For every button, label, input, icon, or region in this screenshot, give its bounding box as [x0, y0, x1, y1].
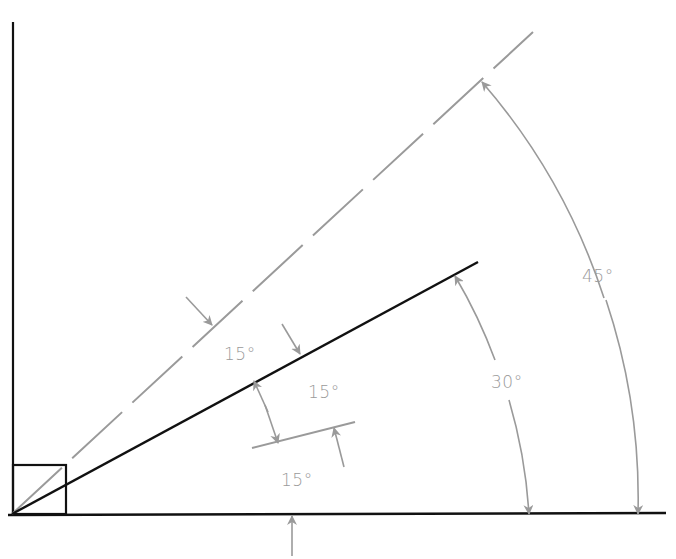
label-30: 30° [491, 372, 523, 392]
label-15-lower: 15° [281, 470, 313, 490]
angle-diagram: 45° 30° 15° 15° 15° [0, 0, 676, 559]
line-15-degrees [252, 422, 355, 448]
label-45: 45° [582, 266, 614, 286]
label-15-middle: 15° [308, 382, 340, 402]
arc-30-dimension: 30° [455, 276, 529, 514]
span-15-upper-dimension: 15° [186, 297, 300, 364]
horizontal-baseline [8, 513, 666, 515]
line-30-degrees [12, 262, 478, 514]
span-15-lower-dimension: 15° [281, 428, 344, 556]
line-45-degrees [12, 32, 533, 514]
label-15-upper: 15° [224, 344, 256, 364]
arc-45-dimension: 45° [482, 82, 638, 514]
span-15-middle-dimension: 15° [254, 381, 340, 443]
